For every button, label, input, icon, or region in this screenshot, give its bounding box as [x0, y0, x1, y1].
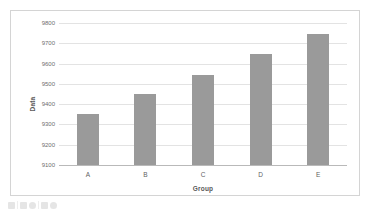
x-tick-label: B [117, 171, 175, 178]
toolbar-square-icon[interactable] [41, 202, 48, 209]
x-axis-title: Group [59, 185, 347, 192]
bars-layer: ABCDE [59, 23, 347, 165]
chart-frame: Data 98009700960095009400930092009100 AB… [10, 10, 360, 196]
x-tick-label: E [289, 171, 347, 178]
y-tick-label: 9300 [42, 121, 55, 127]
bar-group: B [117, 23, 175, 165]
toolbar-square-icon[interactable] [8, 202, 15, 209]
cutoff-toolbar[interactable] [8, 198, 68, 212]
bar-a[interactable] [77, 114, 99, 165]
x-tick-label: C [174, 171, 232, 178]
toolbar-square-icon[interactable] [20, 202, 27, 209]
bar-group: A [59, 23, 117, 165]
toolbar-circle-icon[interactable] [50, 202, 57, 209]
y-tick-label: 9200 [42, 142, 55, 148]
bar-group: E [289, 23, 347, 165]
bar-group: D [232, 23, 290, 165]
toolbar-circle-icon[interactable] [29, 202, 36, 209]
bar-d[interactable] [250, 54, 272, 165]
x-tick-label: D [232, 171, 290, 178]
y-tick-label: 9600 [42, 61, 55, 67]
y-axis-title: Data [25, 11, 39, 197]
y-tick-label: 9400 [42, 101, 55, 107]
bar-e[interactable] [307, 34, 329, 165]
y-tick-label: 9500 [42, 81, 55, 87]
y-tick-label: 9100 [42, 162, 55, 168]
gridline: 9100 [59, 165, 347, 166]
toolbar-divider [17, 201, 18, 209]
bar-b[interactable] [134, 94, 156, 165]
plot-area: 98009700960095009400930092009100 ABCDE [59, 23, 347, 165]
x-tick-label: A [59, 171, 117, 178]
y-tick-label: 9800 [42, 20, 55, 26]
toolbar-divider [38, 201, 39, 209]
bar-c[interactable] [192, 75, 214, 165]
y-tick-label: 9700 [42, 40, 55, 46]
bar-group: C [174, 23, 232, 165]
